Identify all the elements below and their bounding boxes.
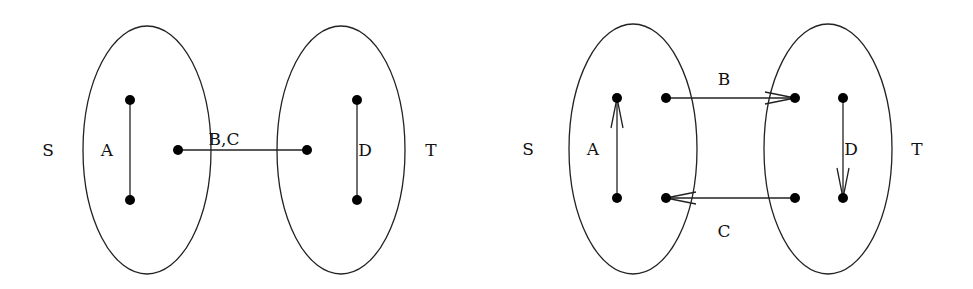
set-label: T [911,139,923,159]
vertex-t1 [790,93,800,103]
vertex-s3 [173,145,183,155]
vertex-s1 [125,95,135,105]
set-graph-diagram: STAB,CDSTABCD [0,0,973,289]
vertex-t4 [838,193,848,203]
vertex-t3 [838,93,848,103]
set-label: S [42,140,54,160]
vertex-s1 [612,93,622,103]
edge-label: B [718,69,731,89]
vertex-s2 [612,193,622,203]
figure-undirected: STAB,CD [42,26,437,274]
set-label: T [425,140,437,160]
vertex-t3 [352,195,362,205]
vertex-t1 [302,145,312,155]
set-t-ellipse [764,24,892,274]
edge-label: D [844,139,858,159]
vertex-s3 [661,93,671,103]
edge-label: A [100,140,114,160]
vertex-s2 [125,195,135,205]
edge-label: A [586,139,600,159]
set-label: S [522,139,534,159]
edge-label: B,C [209,129,240,149]
figure-directed: STABCD [522,24,923,274]
edge-label: C [717,221,730,241]
vertex-t2 [352,95,362,105]
vertex-s4 [661,193,671,203]
vertex-t2 [790,193,800,203]
edge-label: D [358,140,372,160]
